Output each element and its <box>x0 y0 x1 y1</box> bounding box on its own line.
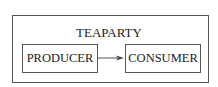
container-label: TEAPARTY <box>0 25 218 41</box>
consumer-label: CONSUMER <box>128 51 197 66</box>
producer-node: PRODUCER <box>22 44 98 73</box>
producer-label: PRODUCER <box>27 51 94 66</box>
consumer-node: CONSUMER <box>125 44 201 73</box>
arrow-producer-to-consumer <box>97 54 127 62</box>
